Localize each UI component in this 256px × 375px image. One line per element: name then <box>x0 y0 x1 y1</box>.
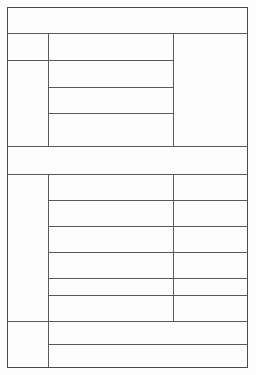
cell-upper-left-2[interactable] <box>8 61 47 145</box>
table-row-body-2-mid[interactable] <box>49 201 172 225</box>
cell-upper-mid-2-text <box>49 61 172 63</box>
cell-footer-left[interactable] <box>8 322 47 366</box>
form-sheet <box>0 0 256 375</box>
table-row-body-1-mid-text <box>49 175 172 177</box>
cell-upper-left-2-text <box>8 61 47 63</box>
cell-upper-left-1-text <box>8 34 47 36</box>
table-row-body-3-mid[interactable] <box>49 227 172 251</box>
table-row-body-5-mid-text <box>49 279 172 281</box>
border-bottom <box>7 367 248 368</box>
cell-separator-band-text <box>8 147 247 149</box>
table-row-body-6-right-text <box>174 296 247 298</box>
cell-body-left-text <box>8 175 47 177</box>
table-row-body-3-right-text <box>174 227 247 229</box>
cell-upper-right-text <box>174 34 247 36</box>
cell-separator-band[interactable] <box>8 147 247 173</box>
table-row-body-4-mid-text <box>49 253 172 255</box>
table-row-footer-2[interactable] <box>49 345 247 366</box>
table-row-body-1-right[interactable] <box>174 175 247 199</box>
cell-upper-left-1[interactable] <box>8 34 47 59</box>
cell-body-left[interactable] <box>8 175 47 320</box>
cell-header-band[interactable] <box>8 8 247 32</box>
table-row-body-2-right-text <box>174 201 247 203</box>
table-row-body-1-mid[interactable] <box>49 175 172 199</box>
cell-footer-left-text <box>8 322 47 324</box>
table-row-body-6-mid-text <box>49 296 172 298</box>
table-row-body-5-right-text <box>174 279 247 281</box>
cell-upper-mid-3[interactable] <box>49 88 172 112</box>
table-row-footer-1[interactable] <box>49 322 247 343</box>
cell-upper-mid-2[interactable] <box>49 61 172 86</box>
table-row-body-5-mid[interactable] <box>49 279 172 294</box>
table-row-body-6-right[interactable] <box>174 296 247 320</box>
table-row-footer-1-text <box>49 322 247 324</box>
cell-upper-mid-4-text <box>49 114 172 116</box>
table-row-body-3-right[interactable] <box>174 227 247 251</box>
table-row-body-6-mid[interactable] <box>49 296 172 320</box>
table-row-body-4-mid[interactable] <box>49 253 172 277</box>
table-row-body-3-mid-text <box>49 227 172 229</box>
cell-upper-mid-1-text <box>49 34 172 36</box>
table-row-body-2-right[interactable] <box>174 201 247 225</box>
table-row-body-1-right-text <box>174 175 247 177</box>
table-row-body-4-right[interactable] <box>174 253 247 277</box>
table-row-body-2-mid-text <box>49 201 172 203</box>
table-row-body-4-right-text <box>174 253 247 255</box>
cell-upper-mid-1[interactable] <box>49 34 172 59</box>
table-row-footer-2-text <box>49 345 247 347</box>
cell-upper-mid-4[interactable] <box>49 114 172 145</box>
border-right <box>247 7 248 368</box>
cell-header-band-text <box>8 8 247 10</box>
table-row-body-5-right[interactable] <box>174 279 247 294</box>
cell-upper-right[interactable] <box>174 34 247 145</box>
cell-upper-mid-3-text <box>49 88 172 90</box>
